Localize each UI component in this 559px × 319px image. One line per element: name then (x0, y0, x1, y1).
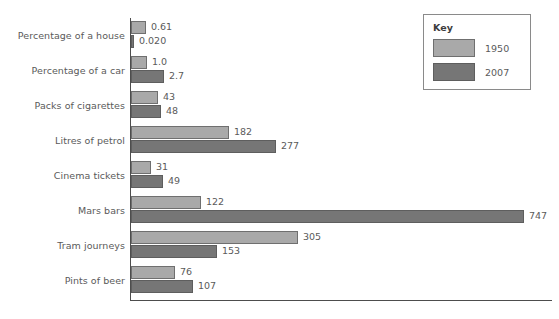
category-label: Litres of petrol (1, 123, 125, 158)
bar-value-label: 1.0 (147, 55, 167, 68)
bar-chart: Percentage of a house0.610.020Percentage… (0, 0, 559, 319)
bar-row: Mars bars122747 (0, 193, 559, 228)
legend-title: Key (433, 22, 453, 33)
bar-value-label: 2.7 (164, 69, 184, 82)
bar-2007 (131, 105, 161, 118)
bar-value-label: 49 (163, 174, 180, 187)
bar-value-label: 747 (524, 209, 547, 222)
legend-label-1950: 1950 (485, 39, 509, 57)
bar-2007 (131, 210, 524, 223)
bar-value-label: 107 (193, 279, 216, 292)
bar-2007 (131, 245, 217, 258)
bar-2007 (131, 175, 163, 188)
bar-value-label: 277 (276, 139, 299, 152)
bar-1950 (131, 56, 147, 69)
bar-1950 (131, 161, 151, 174)
legend-label-2007: 2007 (485, 63, 509, 81)
bar-2007 (131, 280, 193, 293)
bar-1950 (131, 126, 229, 139)
legend: Key 1950 2007 (423, 14, 531, 90)
bar-value-label: 153 (217, 244, 240, 257)
bar-2007 (131, 70, 164, 83)
bar-group: 122747 (131, 193, 559, 228)
bar-value-label: 76 (175, 265, 192, 278)
bar-1950 (131, 266, 175, 279)
bar-value-label: 0.020 (134, 34, 166, 47)
legend-swatch-2007 (433, 63, 475, 81)
category-label: Tram journeys (1, 228, 125, 263)
bar-row: Cinema tickets3149 (0, 158, 559, 193)
bar-1950 (131, 91, 158, 104)
category-label: Pints of beer (1, 263, 125, 298)
bar-value-label: 122 (201, 195, 224, 208)
category-label: Percentage of a house (1, 18, 125, 53)
bar-value-label: 48 (161, 104, 178, 117)
bar-value-label: 0.61 (146, 20, 172, 33)
bar-row: Litres of petrol182277 (0, 123, 559, 158)
category-label: Mars bars (1, 193, 125, 228)
bar-1950 (131, 231, 298, 244)
bar-group: 182277 (131, 123, 559, 158)
legend-entry-2007: 2007 (433, 63, 525, 81)
bar-value-label: 43 (158, 90, 175, 103)
bar-row: Pints of beer76107 (0, 263, 559, 298)
bar-row: Tram journeys305153 (0, 228, 559, 263)
bar-group: 3149 (131, 158, 559, 193)
bar-row: Packs of cigarettes4348 (0, 88, 559, 123)
bar-group: 76107 (131, 263, 559, 298)
value-axis-line (130, 300, 552, 301)
bar-2007 (131, 140, 276, 153)
legend-swatch-1950 (433, 39, 475, 57)
category-label: Percentage of a car (1, 53, 125, 88)
bar-value-label: 305 (298, 230, 321, 243)
legend-entry-1950: 1950 (433, 39, 525, 57)
bar-value-label: 31 (151, 160, 168, 173)
bar-group: 305153 (131, 228, 559, 263)
category-label: Packs of cigarettes (1, 88, 125, 123)
bar-1950 (131, 196, 201, 209)
category-label: Cinema tickets (1, 158, 125, 193)
bar-group: 4348 (131, 88, 559, 123)
bar-value-label: 182 (229, 125, 252, 138)
bar-1950 (131, 21, 146, 34)
